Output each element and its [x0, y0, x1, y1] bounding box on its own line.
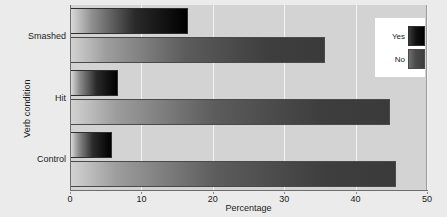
bar-smashed-yes — [70, 8, 188, 34]
legend-label-yes: Yes — [375, 32, 408, 41]
bar-hit-yes — [70, 70, 118, 96]
bar-smashed-no — [70, 37, 325, 63]
y-axis-tick-labels: ControlHitSmashed — [0, 0, 66, 217]
legend: YesNo — [375, 18, 425, 77]
x-axis-line — [70, 190, 428, 191]
legend-swatch-yes — [408, 26, 425, 46]
chart-figure: Verb condition ControlHitSmashed 0102030… — [0, 0, 447, 217]
plot-panel — [70, 5, 427, 190]
bar-control-no — [70, 161, 396, 187]
bar-hit-no — [70, 99, 390, 125]
legend-item-yes[interactable]: Yes — [375, 25, 425, 47]
y-tick-label-smashed: Smashed — [4, 31, 66, 41]
bar-control-yes — [70, 132, 112, 158]
legend-label-no: No — [375, 55, 408, 64]
legend-swatch-no — [408, 49, 425, 69]
y-tick-label-hit: Hit — [4, 93, 66, 103]
gridline — [427, 5, 428, 190]
y-axis-line — [70, 5, 71, 191]
x-axis-title: Percentage — [70, 203, 427, 213]
y-tick-label-control: Control — [4, 154, 66, 164]
legend-item-no[interactable]: No — [375, 48, 425, 70]
